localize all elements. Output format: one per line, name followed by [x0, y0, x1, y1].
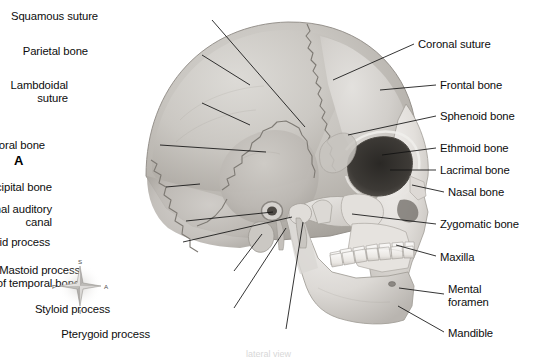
- anatomy-figure-panel: Squamous sutureParietal boneLambdoidalsu…: [0, 0, 537, 358]
- compass-label-anterior: A: [104, 283, 109, 290]
- compass-label-inferior: I: [79, 308, 81, 315]
- compass-label-posterior: P: [52, 283, 56, 290]
- compass-label-superior: S: [78, 258, 82, 265]
- orientation-compass: S I P A: [0, 0, 537, 358]
- figure-caption-partial: lateral view: [0, 349, 537, 358]
